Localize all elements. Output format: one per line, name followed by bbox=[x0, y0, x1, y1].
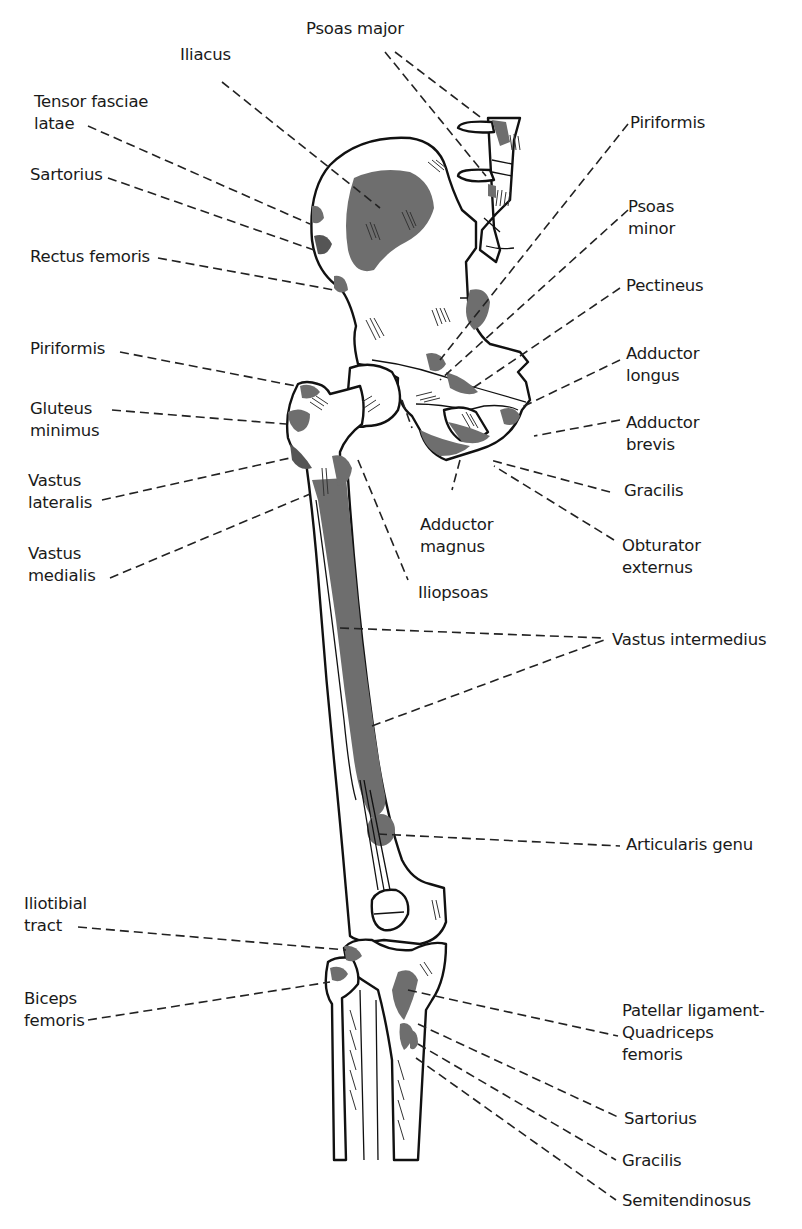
label-text: minor bbox=[628, 218, 675, 240]
label-text: longus bbox=[626, 365, 699, 387]
label-adductor-brevis: Adductor brevis bbox=[626, 412, 699, 456]
label-text: magnus bbox=[420, 536, 493, 558]
label-text: minimus bbox=[30, 420, 99, 442]
label-text: Adductor bbox=[626, 412, 699, 434]
label-semitendinosus: Semitendinosus bbox=[622, 1190, 751, 1212]
anatomy-figure: Iliacus Tensor fasciae latae Sartorius R… bbox=[0, 0, 802, 1229]
label-adductor-magnus: Adductor magnus bbox=[420, 514, 493, 558]
label-iliacus: Iliacus bbox=[180, 44, 231, 66]
label-text: tract bbox=[24, 915, 87, 937]
label-text: femoris bbox=[24, 1010, 85, 1032]
label-text: femoris bbox=[622, 1044, 765, 1066]
label-text: Vastus bbox=[28, 470, 92, 492]
label-text: Quadriceps bbox=[622, 1022, 765, 1044]
label-text: medialis bbox=[28, 565, 96, 587]
label-text: Piriformis bbox=[630, 112, 705, 134]
femur-drawing bbox=[287, 365, 446, 944]
label-piriformis-right: Piriformis bbox=[630, 112, 705, 134]
label-text: Iliotibial bbox=[24, 893, 87, 915]
label-psoas-major: Psoas major bbox=[306, 18, 404, 40]
label-text: Psoas bbox=[628, 196, 675, 218]
label-iliopsoas: Iliopsoas bbox=[418, 582, 488, 604]
label-gluteus-minimus: Gluteus minimus bbox=[30, 398, 99, 442]
label-text: Sartorius bbox=[624, 1108, 697, 1130]
label-sartorius-lower: Sartorius bbox=[624, 1108, 697, 1130]
label-articularis-genu: Articularis genu bbox=[626, 834, 753, 856]
label-text: Obturator bbox=[622, 535, 701, 557]
label-text: Piriformis bbox=[30, 338, 105, 360]
label-text: Iliopsoas bbox=[418, 582, 488, 604]
label-text: Rectus femoris bbox=[30, 246, 150, 268]
tibia-fibula-drawing bbox=[326, 940, 446, 1160]
label-psoas-minor: Psoas minor bbox=[628, 196, 675, 240]
label-gracilis-lower: Gracilis bbox=[622, 1150, 682, 1172]
label-text: Vastus bbox=[28, 543, 96, 565]
label-rectus-femoris: Rectus femoris bbox=[30, 246, 150, 268]
label-gracilis-upper: Gracilis bbox=[624, 480, 684, 502]
label-vastus-medialis: Vastus medialis bbox=[28, 543, 96, 587]
label-pectineus: Pectineus bbox=[626, 275, 704, 297]
label-patellar-ligament-quadriceps-femoris: Patellar ligament- Quadriceps femoris bbox=[622, 1000, 765, 1066]
label-sartorius-upper: Sartorius bbox=[30, 164, 103, 186]
label-text: Gracilis bbox=[622, 1150, 682, 1172]
label-piriformis-left: Piriformis bbox=[30, 338, 105, 360]
label-text: lateralis bbox=[28, 492, 92, 514]
label-text: Sartorius bbox=[30, 164, 103, 186]
label-text: Vastus intermedius bbox=[612, 629, 766, 651]
label-adductor-longus: Adductor longus bbox=[626, 343, 699, 387]
label-text: brevis bbox=[626, 434, 699, 456]
label-obturator-externus: Obturator externus bbox=[622, 535, 701, 579]
label-text: latae bbox=[34, 113, 148, 135]
label-text: Psoas major bbox=[306, 18, 404, 40]
label-text: Semitendinosus bbox=[622, 1190, 751, 1212]
label-biceps-femoris: Biceps femoris bbox=[24, 988, 85, 1032]
label-text: Gracilis bbox=[624, 480, 684, 502]
label-iliotibial-tract: Iliotibial tract bbox=[24, 893, 87, 937]
label-text: Gluteus bbox=[30, 398, 99, 420]
label-text: Patellar ligament- bbox=[622, 1000, 765, 1022]
label-text: Adductor bbox=[626, 343, 699, 365]
label-text: Tensor fasciae bbox=[34, 91, 148, 113]
label-text: Biceps bbox=[24, 988, 85, 1010]
label-text: externus bbox=[622, 557, 701, 579]
label-vastus-lateralis: Vastus lateralis bbox=[28, 470, 92, 514]
label-vastus-intermedius: Vastus intermedius bbox=[612, 629, 766, 651]
label-text: Adductor bbox=[420, 514, 493, 536]
label-tensor-fasciae-latae: Tensor fasciae latae bbox=[34, 91, 148, 135]
label-text: Iliacus bbox=[180, 44, 231, 66]
label-text: Pectineus bbox=[626, 275, 704, 297]
label-text: Articularis genu bbox=[626, 834, 753, 856]
